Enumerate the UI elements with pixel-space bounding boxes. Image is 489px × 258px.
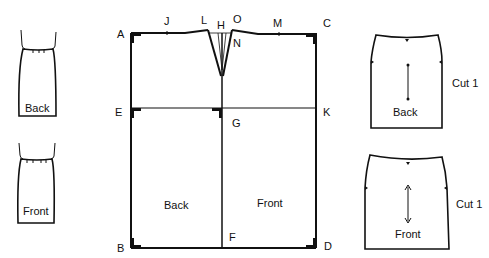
back-waist-a-l [131,30,208,33]
point-label-j: J [164,15,170,27]
front-piece-right-notch [444,186,447,190]
corner-marker-d [306,238,316,248]
back-pattern-piece: Back Cut 1 [371,35,478,128]
point-label-b: B [117,242,124,254]
front-piece-left-notch [365,186,368,190]
front-piece-centre-notch [406,162,410,165]
back-sketch-label: Back [25,102,50,114]
back-sketch-left-hip-line [21,30,25,49]
back-piece-right-notch [439,60,442,64]
back-sketch-right-hip-line [52,32,56,49]
back-piece-left-notch [371,60,374,64]
back-piece-grain-dot-top [407,64,410,67]
point-label-l: L [201,14,207,26]
point-label-c: C [323,17,331,29]
back-piece-grain-dot-bottom [407,98,410,101]
point-label-g: G [232,117,241,129]
front-piece-label: Front [395,228,421,240]
back-piece-label: Back [393,106,418,118]
front-piece-cut-label: Cut 1 [456,198,482,210]
back-skirt-sketch: Back [19,30,56,116]
front-sketch-right-hip-line [51,143,55,159]
point-label-h: H [217,19,225,31]
point-label-k: K [323,106,331,118]
panel-label-front: Front [257,197,283,209]
corner-marker-b [131,238,141,248]
front-pattern-piece: Front Cut 1 [365,155,482,249]
point-label-m: M [273,17,282,29]
front-hip-curve-o [223,30,232,76]
point-label-e: E [115,106,122,118]
corner-marker-c [306,34,316,44]
point-label-n: N [233,37,241,49]
back-piece-centre-notch [405,39,409,42]
front-skirt-sketch: Front [18,143,55,223]
back-piece-cut-label: Cut 1 [452,77,478,89]
corner-marker-a [131,33,141,43]
point-label-f: F [229,231,236,243]
front-waist-o-c [232,30,316,34]
front-sketch-label: Front [23,205,49,217]
point-label-o: O [233,13,242,25]
panel-label-back: Back [164,199,189,211]
back-hip-curve-l [208,30,221,76]
corner-marker-e [131,108,141,118]
point-label-a: A [117,28,125,40]
point-label-d: D [324,240,332,252]
front-sketch-left-hip-line [19,143,23,159]
skirt-pattern-diagram: Back Front [0,0,489,258]
corner-marker-g [212,108,222,118]
skirt-block: A J L H O N M C E G K F B D Back Front [115,13,332,254]
